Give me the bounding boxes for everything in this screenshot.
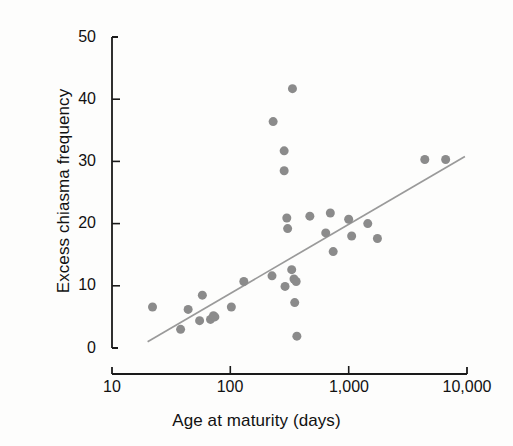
data-point <box>290 298 299 307</box>
data-point <box>287 265 296 274</box>
data-point <box>420 155 429 164</box>
y-tick-label-30: 30 <box>62 152 96 170</box>
data-point <box>239 277 248 286</box>
y-tick-label-0: 0 <box>62 339 96 357</box>
data-point <box>282 214 291 223</box>
data-point <box>269 117 278 126</box>
x-tick-label-100: 100 <box>185 378 275 396</box>
data-point <box>280 166 289 175</box>
data-point <box>184 305 193 314</box>
data-points-group <box>148 84 450 341</box>
data-point <box>321 228 330 237</box>
trend-line <box>148 156 465 341</box>
data-point <box>268 271 277 280</box>
regression-line <box>148 156 465 341</box>
y-tick-label-40: 40 <box>62 90 96 108</box>
data-point <box>280 146 289 155</box>
data-point <box>363 219 372 228</box>
y-axis-title: Excess chiasma frequency <box>54 41 74 341</box>
x-tick-label-1000: 1,000 <box>304 378 394 396</box>
data-point <box>344 215 353 224</box>
data-point <box>326 209 335 218</box>
data-point <box>210 312 219 321</box>
data-point <box>441 155 450 164</box>
x-axis-title: Age at maturity (days) <box>0 411 513 431</box>
data-point <box>198 291 207 300</box>
data-point <box>195 316 204 325</box>
x-tick-label-10: 10 <box>67 378 157 396</box>
data-point <box>283 224 292 233</box>
chart-figure: Excess chiasma frequency Age at maturity… <box>0 0 513 446</box>
data-point <box>227 302 236 311</box>
data-point <box>281 282 290 291</box>
data-point <box>373 234 382 243</box>
data-point <box>148 302 157 311</box>
data-point <box>305 212 314 221</box>
data-point <box>176 325 185 334</box>
data-point <box>347 232 356 241</box>
data-point <box>329 247 338 256</box>
y-axis-spine <box>112 37 118 348</box>
y-tick-label-50: 50 <box>62 28 96 46</box>
data-point <box>292 277 301 286</box>
x-tick-label-10000: 10,000 <box>422 378 512 396</box>
x-axis-spine <box>112 367 467 374</box>
y-tick-label-10: 10 <box>62 276 96 294</box>
data-point <box>292 332 301 341</box>
data-point <box>288 84 297 93</box>
y-tick-label-20: 20 <box>62 214 96 232</box>
